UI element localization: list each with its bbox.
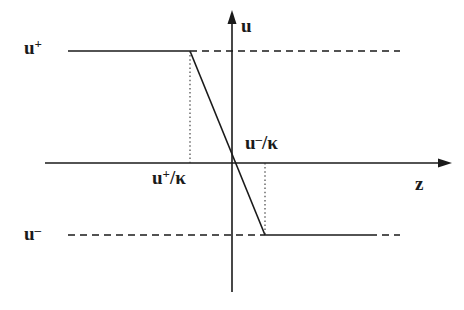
label-u-plus: u+ [24, 38, 42, 57]
label-u-plus-over-kappa: u+/κ [152, 168, 186, 187]
horizontal-axis-arrowhead [438, 159, 452, 168]
figure-canvas: u+ u– u z u+/κ u–/κ [0, 0, 464, 310]
vertical-axis-arrowhead [228, 10, 237, 24]
label-u-plus-kappa-superscript: + [163, 166, 170, 181]
plot-svg [0, 0, 464, 310]
label-u-plus-base: u [24, 37, 35, 58]
label-u-minus-kappa-rest: /κ [262, 132, 278, 153]
label-u-minus-base: u [24, 223, 35, 244]
label-z-axis-base: z [415, 173, 423, 194]
label-u-minus-superscript: – [35, 222, 42, 237]
label-u-minus-over-kappa: u–/κ [245, 133, 278, 152]
label-u-plus-kappa-rest: /κ [170, 167, 186, 188]
label-u-minus: u– [24, 224, 41, 243]
label-u-axis-base: u [241, 15, 252, 36]
label-u-plus-kappa-base: u [152, 167, 163, 188]
label-u-axis: u [241, 16, 252, 35]
label-u-plus-superscript: + [35, 36, 42, 51]
label-u-minus-kappa-base: u [245, 132, 256, 153]
label-z-axis: z [415, 174, 423, 193]
